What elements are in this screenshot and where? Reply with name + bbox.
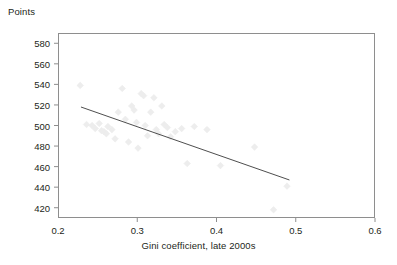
x-axis-title: Gini coefficient, late 2000s [0,240,397,251]
x-tick-label: 0.5 [276,225,316,236]
y-tick-label: 560 [16,58,50,69]
y-tick-label: 500 [16,120,50,131]
x-tick-label: 0.3 [117,225,157,236]
y-tick-label: 540 [16,79,50,90]
x-tick-label: 0.2 [38,225,78,236]
x-tick-label: 0.6 [355,225,395,236]
y-tick-label: 440 [16,182,50,193]
y-tick-label: 460 [16,161,50,172]
y-tick-label: 520 [16,99,50,110]
x-tick-marks [137,218,375,222]
y-tick-label: 580 [16,38,50,49]
x-tick-label: 0.4 [197,225,237,236]
scatter-chart: Points 420440460480500520540560580 0.20.… [0,0,397,265]
plot-area [58,33,375,218]
y-tick-label: 480 [16,141,50,152]
y-axis-title: Points [8,6,35,17]
y-tick-label: 420 [16,202,50,213]
